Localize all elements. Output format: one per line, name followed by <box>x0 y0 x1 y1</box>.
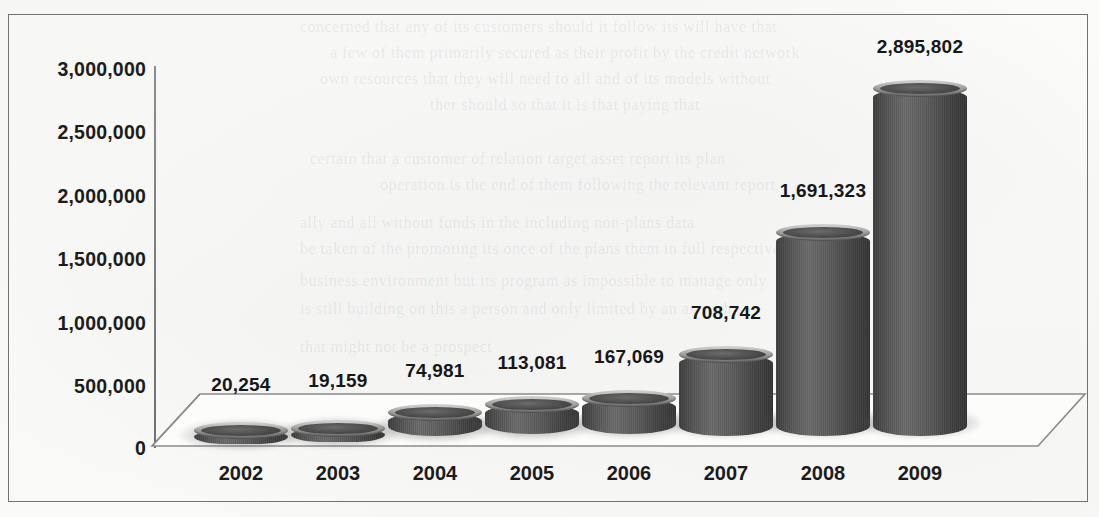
cylinder-2006 <box>582 390 676 434</box>
cylinder-top-inner <box>783 227 863 238</box>
x-tick-label-2004: 2004 <box>390 462 480 485</box>
x-tick-label-2005: 2005 <box>487 462 577 485</box>
cylinder-2007 <box>679 346 773 436</box>
bar-2005[interactable]: 113,081 <box>477 382 587 444</box>
cylinder-2003 <box>291 420 385 442</box>
bar-2006[interactable]: 167,069 <box>574 374 684 444</box>
cylinder-2002 <box>194 422 288 444</box>
bar-value-label: 2,895,802 <box>855 36 985 58</box>
chart-bars: 20,254 19,159 74,981 <box>0 0 1099 517</box>
cylinder-top-inner <box>201 425 281 436</box>
cylinder-body <box>776 233 870 436</box>
bar-2002[interactable]: 20,254 <box>186 398 296 446</box>
x-tick-label-2009: 2009 <box>875 462 965 485</box>
x-tick-label-2002: 2002 <box>196 462 286 485</box>
cylinder-top-inner <box>686 349 766 360</box>
cylinder-top-inner <box>589 393 669 404</box>
bar-2009[interactable]: 2,895,802 <box>865 56 975 444</box>
cylinder-top-inner <box>298 423 378 434</box>
bar-2003[interactable]: 19,159 <box>283 396 393 444</box>
x-tick-label-2008: 2008 <box>778 462 868 485</box>
chart-page: concerned that any of its customers shou… <box>0 0 1099 517</box>
cylinder-2008 <box>776 224 870 436</box>
chart-plot-area: 3,000,000 2,500,000 2,000,000 1,500,000 … <box>0 0 1099 517</box>
bar-2008[interactable]: 1,691,323 <box>768 208 878 444</box>
cylinder-2004 <box>388 404 482 436</box>
bar-2004[interactable]: 74,981 <box>380 388 490 444</box>
cylinder-2005 <box>485 396 579 434</box>
x-tick-label-2006: 2006 <box>584 462 674 485</box>
cylinder-body <box>679 355 773 436</box>
cylinder-top-inner <box>880 83 960 94</box>
x-tick-label-2003: 2003 <box>293 462 383 485</box>
cylinder-top-inner <box>395 407 475 418</box>
cylinder-top-inner <box>492 399 572 410</box>
cylinder-2009 <box>873 80 967 436</box>
x-axis-tick-labels: 2002 2003 2004 2005 2006 2007 2008 2009 <box>0 462 1099 502</box>
cylinder-body <box>873 89 967 436</box>
x-tick-label-2007: 2007 <box>681 462 771 485</box>
